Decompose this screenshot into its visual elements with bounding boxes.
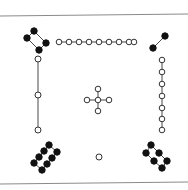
- filled-node: [31, 160, 37, 166]
- open-node: [159, 57, 165, 63]
- filled-node: [36, 154, 42, 160]
- center-star-open: [84, 86, 112, 114]
- bottom-center-isolated-open: [96, 154, 102, 160]
- open-node: [106, 39, 112, 45]
- open-node: [159, 127, 165, 133]
- graph-components-diagram: [0, 0, 188, 190]
- open-node: [95, 86, 101, 92]
- bottom-left-8-cycle-filled: [31, 142, 60, 173]
- filled-node: [31, 28, 37, 34]
- open-node: [35, 56, 41, 62]
- filled-node: [164, 158, 170, 164]
- open-node: [96, 154, 102, 160]
- filled-node: [36, 47, 42, 53]
- filled-node: [156, 150, 162, 156]
- top-right-edge-filled: [150, 33, 168, 51]
- open-node: [95, 97, 101, 103]
- filled-node: [143, 150, 149, 156]
- graph-components: [24, 28, 170, 173]
- left-path-3-open: [35, 56, 41, 133]
- filled-node: [44, 161, 50, 167]
- right-path-7-open: [159, 57, 165, 133]
- filled-node: [151, 158, 157, 164]
- open-node: [116, 39, 122, 45]
- open-node: [66, 39, 72, 45]
- top-left-4-cycle-filled: [24, 28, 49, 53]
- bottom-right-6-cycle-filled: [143, 142, 170, 171]
- filled-node: [162, 33, 168, 39]
- open-node: [76, 39, 82, 45]
- filled-node: [46, 142, 52, 148]
- top-path-9-open: [56, 39, 137, 45]
- open-node: [159, 116, 165, 122]
- filled-node: [43, 40, 49, 46]
- filled-node: [49, 155, 55, 161]
- open-node: [159, 69, 165, 75]
- bottom-rule: [0, 182, 188, 184]
- top-rule: [0, 14, 188, 16]
- open-node: [106, 97, 112, 103]
- open-node: [159, 93, 165, 99]
- open-node: [96, 39, 102, 45]
- open-node: [95, 108, 101, 114]
- filled-node: [54, 149, 60, 155]
- open-node: [35, 127, 41, 133]
- filled-node: [150, 45, 156, 51]
- filled-node: [159, 165, 165, 171]
- open-node: [84, 97, 90, 103]
- filled-node: [24, 35, 30, 41]
- filled-node: [148, 142, 154, 148]
- open-node: [159, 105, 165, 111]
- open-node: [131, 39, 137, 45]
- filled-node: [39, 167, 45, 173]
- filled-node: [41, 148, 47, 154]
- open-node: [86, 39, 92, 45]
- open-node: [159, 81, 165, 87]
- open-node: [35, 92, 41, 98]
- open-node: [56, 39, 62, 45]
